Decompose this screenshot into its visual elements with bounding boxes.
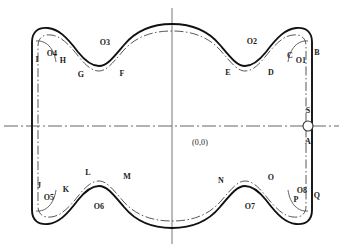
point-label-O3: O3 bbox=[100, 39, 110, 47]
marker-label-S: S bbox=[306, 107, 311, 115]
point-label-C: C bbox=[287, 52, 293, 60]
point-label-O4: O4 bbox=[47, 50, 57, 58]
point-label-O8: O8 bbox=[297, 187, 307, 195]
point-label-M: M bbox=[123, 173, 131, 181]
profile-diagram-figure: (0,0) I O4 H G O3 F E O2 D C O1 B S A Q … bbox=[0, 0, 343, 250]
point-label-I: I bbox=[35, 56, 38, 64]
marker-label-A: A bbox=[305, 138, 311, 146]
point-label-O6: O6 bbox=[94, 203, 104, 211]
point-label-J: J bbox=[37, 182, 41, 190]
point-label-G: G bbox=[78, 71, 84, 79]
point-label-L: L bbox=[85, 169, 90, 177]
point-label-D: D bbox=[268, 69, 274, 77]
point-label-N: N bbox=[218, 177, 224, 185]
point-label-O2: O2 bbox=[247, 38, 257, 46]
point-label-K: K bbox=[63, 186, 69, 194]
origin-label: (0,0) bbox=[192, 139, 208, 147]
point-label-P: P bbox=[294, 196, 299, 204]
point-label-O5: O5 bbox=[44, 194, 54, 202]
point-label-F: F bbox=[120, 70, 125, 78]
point-label-O7: O7 bbox=[245, 203, 255, 211]
point-label-E: E bbox=[225, 69, 230, 77]
point-label-B: B bbox=[314, 49, 319, 57]
marker-circle-s bbox=[303, 121, 313, 131]
point-label-O1: O1 bbox=[296, 57, 306, 65]
point-label-H: H bbox=[60, 57, 66, 65]
profile-diagram-canvas bbox=[0, 0, 343, 250]
point-label-O: O bbox=[268, 174, 274, 182]
point-label-Q: Q bbox=[314, 192, 320, 200]
